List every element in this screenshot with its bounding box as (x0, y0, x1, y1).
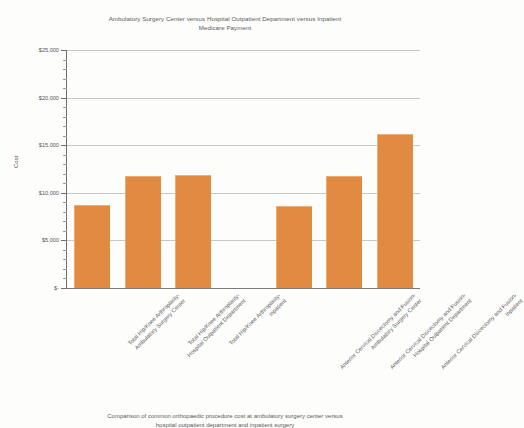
axis-tick-minor (63, 69, 67, 70)
axis-tick-major (61, 98, 67, 99)
axis-tick-major (61, 193, 67, 194)
axis-tick-minor (63, 212, 67, 213)
figure-caption: Comparison of common orthopaedic procedu… (60, 412, 390, 428)
y-axis-tick-label: $15,000 (1, 142, 59, 148)
gridline (67, 98, 420, 99)
chart-title-line-2: Medicare Payment (60, 23, 390, 32)
chart-title: Ambulatory Surgery Center versus Hospita… (60, 14, 390, 32)
axis-tick-minor (63, 126, 67, 127)
axis-tick-minor (63, 259, 67, 260)
bar (74, 205, 110, 288)
axis-tick-minor (63, 202, 67, 203)
y-axis-tick-label: $20,000 (1, 95, 59, 101)
axis-tick-minor (63, 117, 67, 118)
plot-area (67, 50, 420, 288)
axis-tick-minor (63, 269, 67, 270)
gridline (67, 145, 420, 146)
axis-tick-major (61, 240, 67, 241)
x-axis-category-label-line: Ambulatory Surgery Center (132, 297, 187, 352)
bar (276, 206, 312, 288)
x-axis-category-label-line: Total Hip/Knee Arthroplasty- (127, 292, 182, 347)
y-axis-tick-label: $10,000 (1, 190, 59, 196)
axis-tick-minor (63, 136, 67, 137)
bar (125, 176, 161, 288)
axis-tick-minor (63, 278, 67, 279)
axis-tick-major (61, 145, 67, 146)
figure-caption-line-1: Comparison of common orthopaedic procedu… (60, 412, 390, 421)
gridline (67, 50, 420, 51)
bar (326, 176, 362, 288)
gridline (67, 193, 420, 194)
axis-tick-major (61, 50, 67, 51)
axis-tick-minor (63, 183, 67, 184)
axis-tick-minor (63, 107, 67, 108)
x-axis-category-label-line: Ambulatory Surgery Center (344, 297, 423, 376)
axis-tick-minor (63, 250, 67, 251)
axis-tick-minor (63, 155, 67, 156)
axis-tick-minor (63, 164, 67, 165)
gridline (67, 240, 420, 241)
bar (175, 175, 211, 288)
figure-caption-line-2: hospital outpatient department and inpat… (60, 421, 390, 428)
axis-tick-minor (63, 60, 67, 61)
axis-tick-minor (63, 88, 67, 89)
axis-tick-minor (63, 79, 67, 80)
chart-title-line-1: Ambulatory Surgery Center versus Hospita… (60, 14, 390, 23)
y-axis-tick-label: $25,000 (1, 47, 59, 53)
axis-tick-minor (63, 221, 67, 222)
y-axis-tick-label: $5,000 (1, 237, 59, 243)
axis-tick-minor (63, 174, 67, 175)
bar (377, 134, 413, 288)
x-axis-category-labels: Total Hip/Knee Arthroplasty-Ambulatory S… (0, 288, 439, 398)
x-axis-category-label: Total Hip/Knee Arthroplasty-Ambulatory S… (127, 292, 188, 353)
axis-tick-minor (63, 231, 67, 232)
